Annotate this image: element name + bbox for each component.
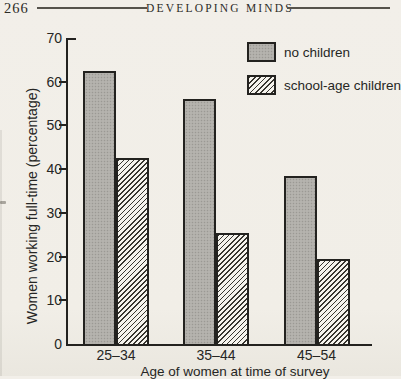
legend-swatch-no-children — [247, 42, 276, 62]
legend-item-school-age-children: school-age children — [247, 75, 401, 95]
y-axis-top-cap — [66, 38, 76, 40]
scan-edge-mark — [0, 201, 6, 204]
y-tick-label-70: 70 — [28, 30, 62, 46]
scan-edge-line — [0, 130, 2, 376]
x-label-35-44: 35–44 — [176, 348, 256, 363]
x-axis-title: Age of women at time of survey — [115, 364, 355, 379]
bar-school-age-children-25-34 — [116, 158, 149, 346]
bar-no-children-35-44 — [183, 99, 216, 346]
y-axis-title: Women working full-time (percentage) — [24, 88, 40, 324]
y-axis-line — [66, 38, 68, 346]
legend-item-no-children: no children — [247, 42, 350, 62]
x-label-45-54: 45–54 — [277, 348, 357, 363]
legend-swatch-school-age-children — [247, 75, 276, 95]
x-label-25-34: 25–34 — [76, 348, 156, 363]
legend-label-school-age-children: school-age children — [284, 78, 401, 93]
legend-label-no-children: no children — [284, 45, 350, 60]
bar-no-children-45-54 — [284, 176, 317, 346]
bar-school-age-children-35-44 — [216, 233, 249, 346]
y-tick-label-0: 0 — [28, 336, 62, 352]
bar-school-age-children-45-54 — [317, 259, 350, 346]
bar-no-children-25-34 — [83, 71, 116, 346]
